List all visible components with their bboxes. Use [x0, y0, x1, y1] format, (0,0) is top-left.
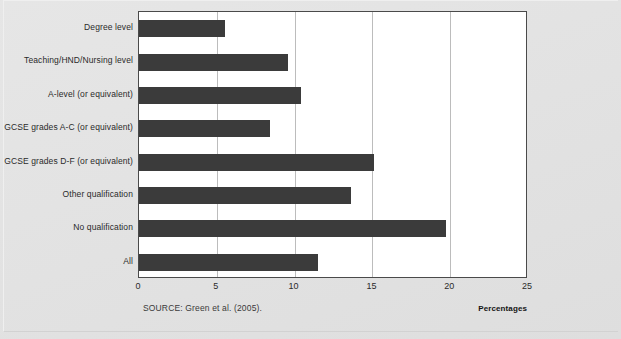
bar-row [139, 212, 526, 245]
x-tick-label: 15 [366, 281, 376, 291]
bar-row [139, 112, 526, 145]
chart-page: Degree levelTeaching/HND/Nursing levelA-… [0, 0, 621, 339]
category-axis-labels: Degree levelTeaching/HND/Nursing levelA-… [0, 11, 133, 278]
category-label: A-level (or equivalent) [0, 78, 133, 111]
x-tick-label: 20 [444, 281, 454, 291]
category-label: No qualification [0, 211, 133, 244]
bar-row [139, 246, 526, 279]
source-note: SOURCE: Green et al. (2005). [143, 303, 262, 313]
bar-row [139, 179, 526, 212]
bar[interactable] [139, 154, 374, 171]
x-tick-label: 0 [135, 281, 140, 291]
axis-unit-label: Percentages [447, 304, 527, 313]
bar[interactable] [139, 254, 318, 271]
bar[interactable] [139, 187, 351, 204]
bar-row [139, 12, 526, 45]
plot-area [138, 11, 527, 278]
x-tick-label: 25 [522, 281, 532, 291]
category-label: Other qualification [0, 178, 133, 211]
bar-row [139, 79, 526, 112]
category-label: Teaching/HND/Nursing level [0, 44, 133, 77]
bar[interactable] [139, 54, 288, 71]
category-label: GCSE grades A-C (or equivalent) [0, 111, 133, 144]
x-tick-label: 10 [289, 281, 299, 291]
bar-row [139, 45, 526, 78]
bar-series [139, 12, 526, 277]
bar[interactable] [139, 20, 225, 37]
bar-row [139, 146, 526, 179]
category-label: Degree level [0, 11, 133, 44]
category-label: All [0, 245, 133, 278]
x-tick-label: 5 [213, 281, 218, 291]
bar[interactable] [139, 87, 301, 104]
bar[interactable] [139, 120, 270, 137]
category-label: GCSE grades D-F (or equivalent) [0, 145, 133, 178]
value-axis-ticks: 0510152025 [0, 281, 621, 297]
bar[interactable] [139, 220, 446, 237]
